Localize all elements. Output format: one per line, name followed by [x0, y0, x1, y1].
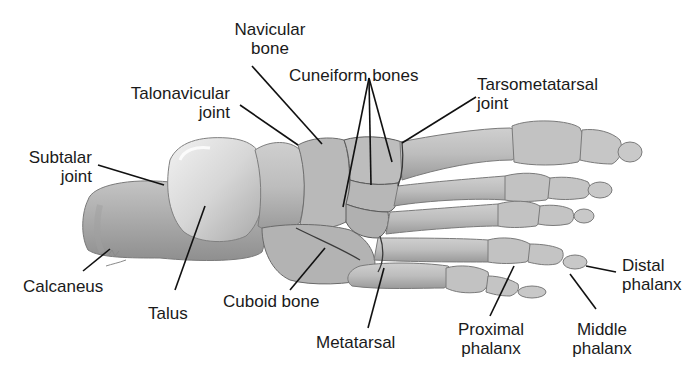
label-text: joint	[100, 103, 230, 122]
label-text: Metatarsal	[316, 333, 395, 352]
label-calcaneus: Calcaneus	[23, 277, 103, 296]
label-text: Middle	[562, 320, 642, 339]
label-text: phalanx	[443, 339, 539, 358]
label-cuboid-bone: Cuboid bone	[223, 292, 319, 311]
label-text: joint	[477, 94, 598, 113]
label-text: Cuboid bone	[223, 292, 319, 311]
label-middle-phalanx: Middle phalanx	[562, 320, 642, 358]
navicular-bone	[298, 138, 350, 228]
label-text: Proximal	[443, 320, 539, 339]
label-text: phalanx	[562, 339, 642, 358]
label-text: phalanx	[622, 275, 682, 294]
label-navicular-bone: Navicular bone	[222, 20, 318, 58]
label-text: Subtalar	[8, 148, 92, 167]
label-tarsometatarsal-joint: Tarsometatarsal joint	[477, 75, 598, 113]
label-text: joint	[8, 167, 92, 186]
label-distal-phalanx: Distal phalanx	[622, 256, 682, 294]
label-text: Tarsometatarsal	[477, 75, 598, 94]
label-text: Navicular	[222, 20, 318, 39]
phalanges-toe-2	[505, 173, 612, 201]
leader-middle	[570, 274, 596, 309]
label-talonavicular-joint: Talonavicular joint	[100, 84, 230, 122]
label-talus: Talus	[148, 304, 188, 323]
label-text: Talus	[148, 304, 188, 323]
phalanges-toe-4	[488, 238, 587, 269]
foot-bones-illustration	[0, 0, 700, 371]
label-text: Distal	[622, 256, 682, 275]
label-text: Cuneiform bones	[289, 66, 418, 85]
label-subtalar-joint: Subtalar joint	[8, 148, 92, 186]
leader-distal	[586, 266, 616, 272]
label-proximal-phalanx: Proximal phalanx	[443, 320, 539, 358]
label-text: bone	[222, 39, 318, 58]
phalanges-toe-1	[512, 121, 642, 165]
foot-anatomy-diagram: Navicular bone Cuneiform bones Talonavic…	[0, 0, 700, 371]
talus-head	[255, 143, 305, 231]
leader-talonavicular	[240, 105, 298, 145]
label-text: Calcaneus	[23, 277, 103, 296]
talus-bone	[168, 138, 265, 242]
label-metatarsal: Metatarsal	[316, 333, 395, 352]
phalanges-toe-5	[446, 266, 546, 298]
label-text: Talonavicular	[100, 84, 230, 103]
phalanges-toe-3	[498, 201, 594, 227]
label-cuneiform-bones: Cuneiform bones	[289, 66, 418, 85]
